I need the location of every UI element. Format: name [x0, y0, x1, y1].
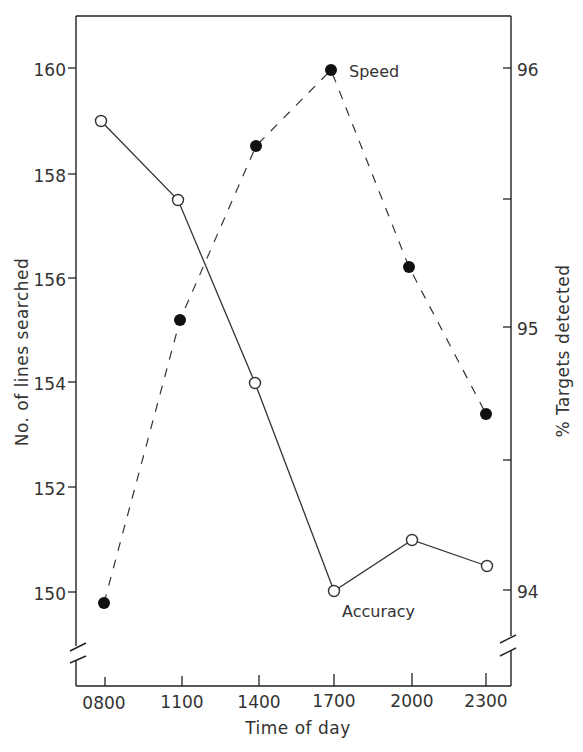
x-axis-title: Time of day — [244, 718, 351, 738]
speed-point — [325, 64, 337, 76]
axis-break-mark — [70, 643, 86, 651]
speed-point — [250, 140, 262, 152]
speed-label: Speed — [349, 62, 399, 81]
chart: 0800 1100 1400 1700 2000 2300 Time of da… — [0, 0, 583, 752]
y-left-tick-label: 154 — [34, 374, 66, 394]
y-left-tick-label: 150 — [34, 584, 66, 604]
accuracy-label: Accuracy — [342, 602, 415, 621]
series-speed — [98, 64, 492, 609]
y-left-tick-label: 156 — [34, 270, 66, 290]
accuracy-point — [407, 535, 418, 546]
x-tick-label: 1400 — [237, 692, 280, 712]
x-tick-label: 2000 — [390, 691, 433, 711]
axis-break-mark — [500, 635, 516, 643]
speed-point — [174, 314, 186, 326]
accuracy-point — [96, 116, 107, 127]
series-accuracy — [96, 116, 493, 597]
right-y-ticks: 96 95 94 — [503, 60, 539, 602]
y-right-tick-label: 96 — [517, 60, 539, 80]
y-left-tick-label: 158 — [34, 166, 66, 186]
y-right-tick-label: 94 — [517, 582, 539, 602]
x-ticks: 0800 1100 1400 1700 2000 2300 — [82, 673, 507, 713]
y-left-tick-label: 152 — [34, 479, 66, 499]
y-left-axis-title: No. of lines searched — [12, 258, 32, 447]
speed-line — [104, 70, 486, 603]
axis-break-mark — [500, 648, 516, 656]
y-left-tick-label: 160 — [34, 60, 66, 80]
x-tick-label: 2300 — [464, 691, 507, 711]
accuracy-point — [173, 195, 184, 206]
left-y-ticks: 150 152 154 156 158 160 — [34, 60, 76, 604]
axis-break-mark — [70, 656, 86, 663]
x-tick-label: 0800 — [82, 693, 125, 713]
speed-point — [480, 408, 492, 420]
right-axis — [500, 16, 516, 686]
accuracy-line — [101, 121, 487, 591]
accuracy-point — [482, 561, 493, 572]
y-right-tick-label: 95 — [517, 319, 539, 339]
speed-point — [403, 261, 415, 273]
accuracy-point — [329, 586, 340, 597]
left-axis — [70, 16, 86, 686]
speed-point — [98, 597, 110, 609]
x-tick-label: 1100 — [160, 692, 203, 712]
y-right-axis-title: % Targets detected — [553, 264, 573, 437]
x-tick-label: 1700 — [312, 691, 355, 711]
accuracy-point — [250, 378, 261, 389]
